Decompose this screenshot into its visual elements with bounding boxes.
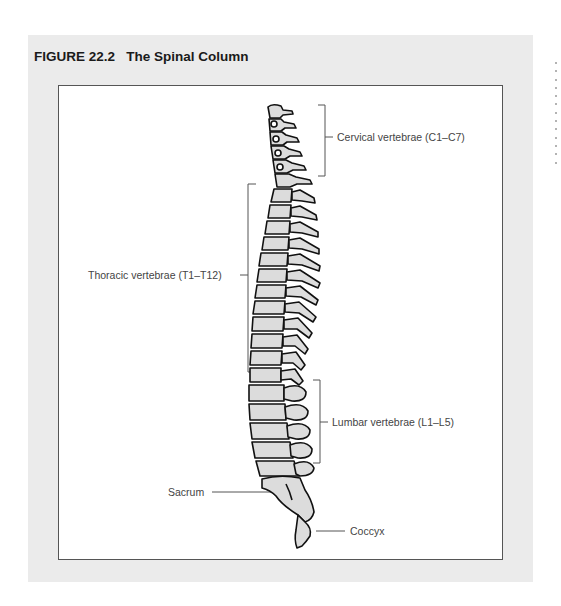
margin-dot bbox=[555, 120, 557, 122]
lumbar-vertebrae bbox=[249, 385, 314, 476]
spine-illustration bbox=[249, 105, 320, 548]
cervical-label: Cervical vertebrae (C1–C7) bbox=[337, 131, 465, 143]
margin-dot bbox=[555, 145, 557, 147]
margin-dot bbox=[555, 87, 557, 89]
margin-dot bbox=[555, 153, 557, 155]
cervical-bracket bbox=[318, 105, 333, 176]
margin-dot bbox=[555, 137, 557, 139]
margin-dot bbox=[555, 95, 557, 97]
margin-dot bbox=[555, 128, 557, 130]
margin-dot bbox=[555, 79, 557, 81]
thoracic-label: Thoracic vertebrae (T1–T12) bbox=[88, 269, 222, 281]
sacrum bbox=[262, 476, 314, 522]
lumbar-label: Lumbar vertebrae (L1–L5) bbox=[332, 416, 454, 428]
margin-dot bbox=[555, 62, 557, 64]
cervical-vertebrae bbox=[268, 105, 312, 187]
margin-dot bbox=[555, 70, 557, 72]
thoracic-vertebrae bbox=[250, 189, 320, 385]
sacrum-label: Sacrum bbox=[168, 486, 204, 498]
coccyx-label: Coccyx bbox=[350, 525, 384, 537]
margin-dot bbox=[555, 103, 557, 105]
margin-dot bbox=[555, 162, 557, 164]
margin-dot bbox=[555, 112, 557, 114]
spinal-column-diagram bbox=[0, 0, 561, 606]
lumbar-bracket bbox=[313, 380, 328, 463]
margin-dots bbox=[555, 62, 558, 170]
